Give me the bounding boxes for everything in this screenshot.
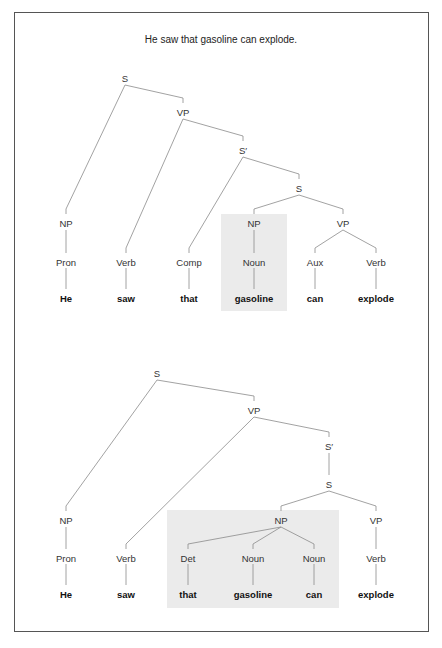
tree-leaf-word: gasoline <box>235 293 274 304</box>
tree-edge <box>329 491 376 511</box>
tree-edge <box>243 157 299 179</box>
tree-leaf-word: explode <box>358 293 394 304</box>
tree-leaf-word: He <box>60 589 72 600</box>
tree-node-label: Verb <box>116 257 136 268</box>
tree-leaf-word: can <box>306 589 323 600</box>
tree-edge <box>281 491 329 511</box>
tree-node-label: S <box>122 73 128 84</box>
tree-node-label: VP <box>248 405 261 416</box>
tree-edge <box>299 195 343 214</box>
tree-leaf-word: He <box>60 293 72 304</box>
tree-node-label: S′ <box>239 145 247 156</box>
tree-node-label: Verb <box>366 257 386 268</box>
tree-node-label: Noun <box>242 553 265 564</box>
tree-node-label: VP <box>337 218 350 229</box>
tree-edge <box>66 85 125 214</box>
tree-node-label: NP <box>274 515 287 526</box>
tree-leaf-word: that <box>180 293 198 304</box>
parse-tree-bottom: SVPS′SNPNPVPPronVerbDetNounNounVerbHesaw… <box>56 368 394 609</box>
tree-edge <box>254 417 329 437</box>
parse-tree-diagram: SVPS′SNPNPVPPronVerbCompNounAuxVerbHesaw… <box>0 0 442 648</box>
tree-node-label: NP <box>247 218 260 229</box>
tree-node-label: S <box>154 368 160 379</box>
tree-edge <box>157 380 254 401</box>
tree-node-label: Aux <box>307 257 324 268</box>
tree-node-label: S′ <box>325 441 333 452</box>
tree-node-label: NP <box>59 218 72 229</box>
tree-node-label: Verb <box>116 553 136 564</box>
tree-edge <box>183 119 243 141</box>
tree-node-label: NP <box>59 515 72 526</box>
tree-node-label: Det <box>181 553 196 564</box>
tree-leaf-word: gasoline <box>234 589 273 600</box>
tree-leaf-word: saw <box>117 589 136 600</box>
tree-edge <box>315 230 343 253</box>
tree-node-label: S <box>326 479 332 490</box>
tree-edge <box>66 380 157 511</box>
tree-edge <box>254 195 299 214</box>
tree-leaf-word: explode <box>358 589 394 600</box>
parse-tree-top: SVPS′SNPNPVPPronVerbCompNounAuxVerbHesaw… <box>56 73 394 312</box>
tree-node-label: VP <box>177 107 190 118</box>
tree-node-label: Verb <box>366 553 386 564</box>
tree-leaf-word: can <box>307 293 324 304</box>
tree-node-label: VP <box>370 515 383 526</box>
tree-node-label: Pron <box>56 553 76 564</box>
tree-node-label: Noun <box>243 257 266 268</box>
tree-edge <box>343 230 376 253</box>
tree-node-label: Comp <box>176 257 201 268</box>
tree-edge <box>126 119 183 253</box>
tree-leaf-word: that <box>179 589 197 600</box>
tree-leaf-word: saw <box>117 293 136 304</box>
tree-edge <box>125 85 183 103</box>
tree-node-label: Noun <box>303 553 326 564</box>
tree-node-label: Pron <box>56 257 76 268</box>
tree-node-label: S <box>296 183 302 194</box>
